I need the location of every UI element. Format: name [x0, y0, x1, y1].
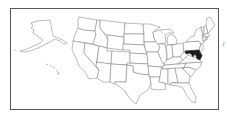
state-rhode-island: [206, 37, 208, 40]
us-map: [0, 0, 227, 121]
state-connecticut: [203, 37, 206, 41]
state-south-dakota: [124, 34, 144, 45]
state-wyoming: [107, 35, 124, 50]
state-arizona: [96, 62, 111, 82]
state-florida: [170, 83, 196, 103]
state-utah: [97, 46, 112, 64]
contiguous-us: [72, 17, 215, 104]
state-new-mexico: [110, 64, 127, 84]
state-north-dakota: [124, 23, 144, 34]
edge-mark: /: [223, 41, 224, 47]
state-hawaii: [46, 64, 59, 74]
state-maine: [206, 17, 215, 33]
state-kansas: [130, 53, 148, 64]
state-arkansas: [148, 66, 162, 77]
state-alaska: [20, 20, 67, 52]
